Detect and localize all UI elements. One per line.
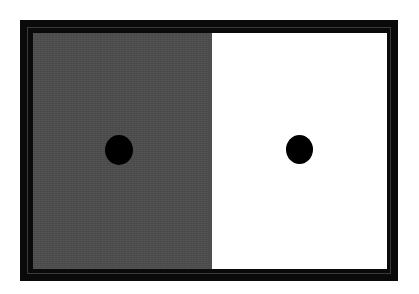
black-dot-right (286, 135, 313, 164)
white-panel (212, 33, 387, 269)
illusion-figure (0, 0, 419, 294)
dark-gray-panel (33, 33, 212, 269)
black-frame (20, 20, 398, 281)
black-dot-left (105, 135, 133, 165)
